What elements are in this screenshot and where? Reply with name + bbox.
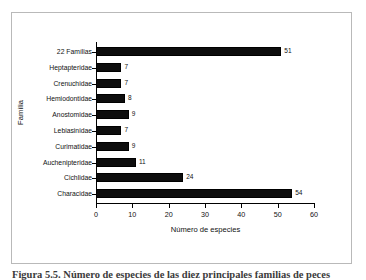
- bar-value-label: 9: [132, 108, 136, 119]
- bar-value-label: 8: [128, 92, 132, 103]
- category-tick-label: Auchenipteridae: [0, 157, 92, 168]
- bar[interactable]: [96, 63, 121, 72]
- x-axis-tick: [278, 204, 279, 208]
- y-axis-tick: [92, 194, 96, 195]
- bar-value-label: 24: [186, 171, 193, 182]
- bar-value-label: 9: [132, 140, 136, 151]
- bar-chart: 54241197987751 CharacidaeCichlidaeAuchen…: [12, 13, 353, 265]
- x-axis-tick-label: 60: [304, 210, 324, 220]
- bar[interactable]: [96, 110, 129, 119]
- x-axis-tick: [169, 204, 170, 208]
- bar[interactable]: [96, 79, 121, 88]
- y-axis-tick: [92, 147, 96, 148]
- bar-value-label: 7: [124, 124, 128, 135]
- bar-value-label: 7: [124, 61, 128, 72]
- x-axis-tick-label: 50: [268, 210, 288, 220]
- category-tick-label: Hemiodontidae: [0, 93, 92, 104]
- category-tick-label: 22 Famílias: [0, 46, 92, 57]
- category-tick-label: Cichlidae: [0, 172, 92, 183]
- bar-value-label: 7: [124, 77, 128, 88]
- category-tick-label: Crenuchidae: [0, 78, 92, 89]
- category-tick-label: Lebiasinidae: [0, 125, 92, 136]
- bar[interactable]: [96, 94, 125, 103]
- x-axis-tick-label: 0: [86, 210, 106, 220]
- x-axis-tick-label: 30: [195, 210, 215, 220]
- bar[interactable]: [96, 158, 136, 167]
- bar[interactable]: [96, 126, 121, 135]
- figure-frame: 54241197987751 CharacidaeCichlidaeAuchen…: [11, 12, 352, 264]
- x-axis-title: Número de especies: [96, 225, 315, 234]
- category-tick-label: Characidae: [0, 188, 92, 199]
- x-axis-tick: [241, 204, 242, 208]
- y-axis-title: Família: [16, 83, 25, 143]
- y-axis-tick: [92, 84, 96, 85]
- bar-value-label: 54: [295, 187, 302, 198]
- bar[interactable]: [96, 142, 129, 151]
- y-axis-tick: [92, 131, 96, 132]
- bar[interactable]: [96, 173, 183, 182]
- x-axis-tick: [314, 204, 315, 208]
- x-axis-tick-label: 40: [231, 210, 251, 220]
- x-axis-tick-label: 10: [122, 210, 142, 220]
- y-axis-tick: [92, 178, 96, 179]
- x-axis-tick: [205, 204, 206, 208]
- category-tick-label: Anostomidae: [0, 109, 92, 120]
- y-axis-tick: [92, 115, 96, 116]
- y-axis-tick: [92, 68, 96, 69]
- x-axis-tick-label: 20: [159, 210, 179, 220]
- y-axis-tick: [92, 163, 96, 164]
- category-tick-label: Heptapteridae: [0, 62, 92, 73]
- bar-value-label: 51: [284, 45, 291, 56]
- bar[interactable]: [96, 189, 292, 198]
- bar[interactable]: [96, 47, 281, 56]
- bar-value-label: 11: [139, 156, 146, 167]
- x-axis-tick: [132, 204, 133, 208]
- category-tick-label: Curimatidae: [0, 141, 92, 152]
- x-axis-tick: [96, 204, 97, 208]
- y-axis-tick: [92, 99, 96, 100]
- figure-caption: Figura 5.5. Número de especies de las di…: [12, 269, 356, 280]
- y-axis-tick: [92, 52, 96, 53]
